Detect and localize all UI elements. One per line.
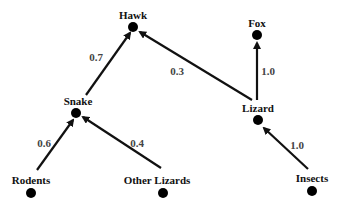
- node-dot-other_lizards: [158, 188, 168, 198]
- node-dot-lizard: [253, 115, 263, 125]
- node-label-rodents: Rodents: [12, 174, 51, 186]
- edge-weight-other_lizards-to-snake: 0.4: [130, 137, 144, 149]
- node-label-hawk: Hawk: [119, 9, 147, 21]
- edge-arrow-snake-to-hawk: [86, 33, 130, 95]
- node-dot-rodents: [26, 188, 36, 198]
- edge-weight-snake-to-hawk: 0.7: [89, 51, 103, 63]
- node-dot-hawk: [128, 22, 138, 32]
- node-dot-fox: [252, 30, 262, 40]
- edge-weight-insects-to-lizard: 1.0: [290, 139, 304, 151]
- food-web-diagram: 0.70.31.00.60.41.0HawkFoxSnakeLizardRode…: [0, 0, 340, 210]
- edge-weight-lizard-to-fox: 1.0: [261, 65, 275, 77]
- node-dot-snake: [71, 108, 81, 118]
- node-label-snake: Snake: [64, 95, 93, 107]
- edge-weight-lizard-to-hawk: 0.3: [170, 65, 184, 77]
- edge-weight-rodents-to-snake: 0.6: [37, 137, 51, 149]
- edge-arrow-other_lizards-to-snake: [83, 117, 161, 168]
- edge-arrow-lizard-to-hawk: [140, 32, 252, 100]
- node-label-fox: Fox: [248, 17, 266, 29]
- node-label-insects: Insects: [296, 172, 328, 184]
- node-dot-insects: [307, 186, 317, 196]
- node-label-lizard: Lizard: [242, 102, 274, 114]
- node-label-other_lizards: Other Lizards: [124, 174, 191, 186]
